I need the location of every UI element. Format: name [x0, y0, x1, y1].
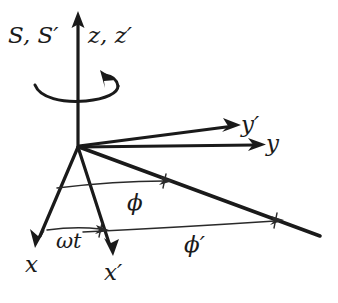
y-prime-axis-label: y′: [241, 113, 259, 136]
z-axis-label: z, z′: [88, 24, 132, 47]
phi-prime-angle-label: ϕ′: [184, 233, 205, 256]
phi-prime-angle-arc: [83, 213, 284, 232]
radial-direction-line: [79, 147, 320, 236]
frames-label: S, S′: [8, 24, 59, 47]
x-axis-label: x: [25, 253, 38, 276]
y-axis-label: y: [266, 132, 279, 155]
y-axis-arrow: [79, 138, 266, 151]
y-prime-axis-arrow: [79, 118, 241, 146]
phi-angle-label: ϕ: [127, 191, 143, 214]
physics-diagram-figure: S, S′ z, z′ y′ y ϕ ϕ′ ωt x x′: [0, 0, 338, 303]
z-axis-arrow: [72, 11, 85, 148]
x-prime-axis-arrow: [78, 147, 119, 256]
x-prime-axis-label: x′: [104, 261, 122, 284]
omega-t-angle-label: ωt: [56, 231, 82, 252]
